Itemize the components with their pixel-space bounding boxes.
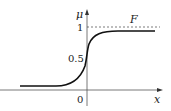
- x-axis-label: x: [154, 93, 161, 106]
- y-axis-label: μ: [76, 8, 83, 21]
- curve-label-f: F: [129, 13, 138, 26]
- y-axis-arrow-icon: [85, 9, 89, 15]
- origin-label: 0: [77, 94, 83, 105]
- x-axis-arrow-icon: [157, 88, 163, 92]
- tick-label-half: 0.5: [68, 53, 84, 64]
- chart-canvas: μ 1 0.5 0 x F: [0, 0, 171, 111]
- membership-curve: [20, 31, 155, 86]
- tick-label-one: 1: [77, 22, 83, 33]
